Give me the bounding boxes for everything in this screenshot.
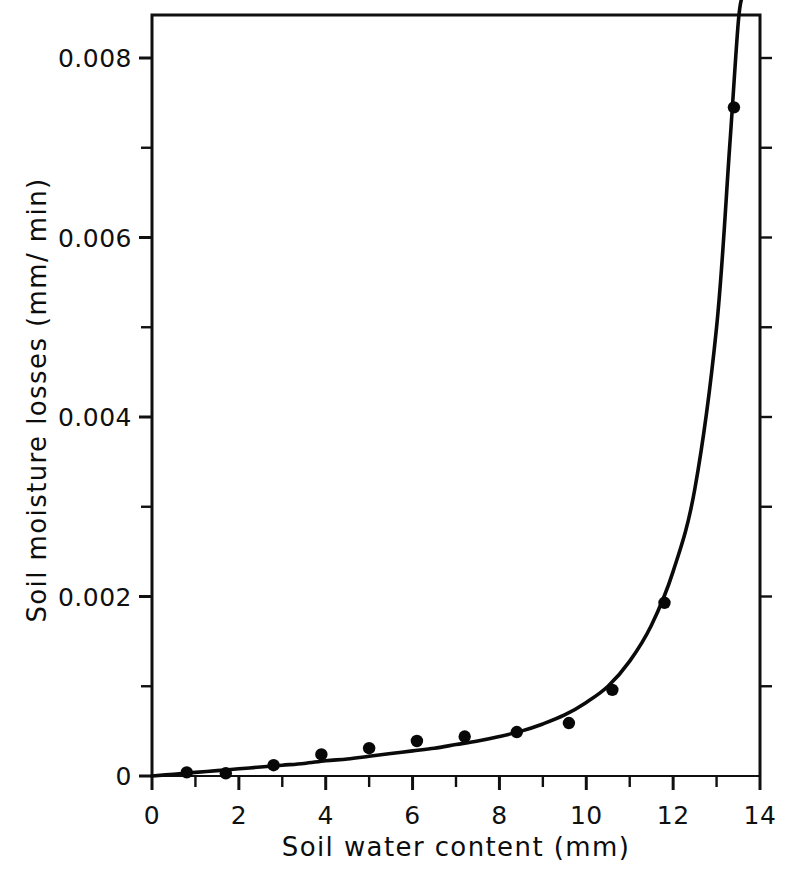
- data-point: [363, 742, 375, 754]
- data-point: [658, 597, 670, 609]
- data-point: [728, 101, 740, 113]
- data-point: [267, 759, 279, 771]
- x-tick-label: 2: [231, 801, 247, 830]
- x-axis-title: Soil water content (mm): [282, 832, 630, 862]
- x-tick-label: 8: [491, 801, 507, 830]
- y-tick-label: 0: [116, 762, 132, 791]
- y-axis-title: Soil moisture losses (mm/ min): [22, 177, 52, 622]
- chart-plot: 00.0020.0040.0060.008 02468101214 Soil w…: [0, 0, 789, 873]
- data-point: [563, 717, 575, 729]
- data-point: [181, 766, 193, 778]
- x-tick-label: 4: [318, 801, 334, 830]
- y-tick-label: 0.006: [58, 224, 132, 253]
- x-tick-label: 12: [657, 801, 690, 830]
- y-tick-label: 0.004: [58, 403, 132, 432]
- data-point: [220, 767, 232, 779]
- data-point: [606, 684, 618, 696]
- chart-background: [0, 0, 789, 873]
- data-point: [511, 726, 523, 738]
- data-point: [315, 748, 327, 760]
- data-point: [411, 735, 423, 747]
- y-tick-label: 0.002: [58, 583, 132, 612]
- x-tick-label: 10: [570, 801, 603, 830]
- data-point: [458, 730, 470, 742]
- x-tick-label: 0: [144, 801, 160, 830]
- x-tick-label: 6: [404, 801, 420, 830]
- figure-root: 00.0020.0040.0060.008 02468101214 Soil w…: [0, 0, 789, 873]
- y-tick-label: 0.008: [58, 44, 132, 73]
- x-tick-label: 14: [744, 801, 777, 830]
